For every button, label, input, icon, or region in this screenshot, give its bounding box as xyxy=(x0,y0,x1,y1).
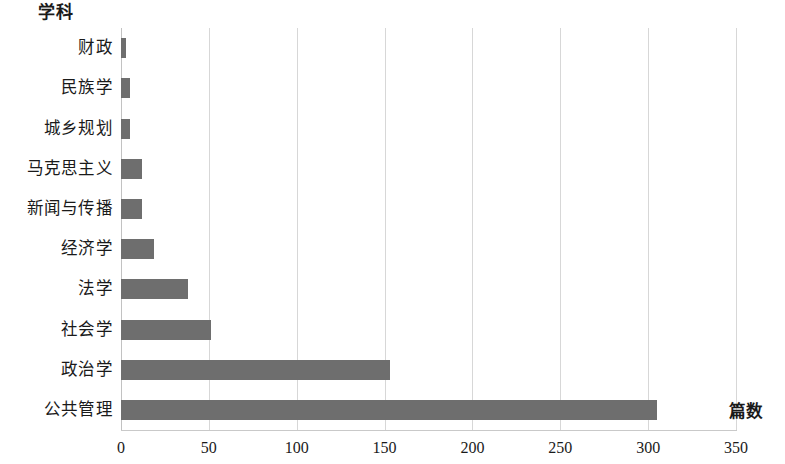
chart-title: 学科 xyxy=(38,4,73,21)
x-axis-baseline xyxy=(121,430,737,431)
bar-row xyxy=(121,392,736,428)
x-axis-tick-label: 0 xyxy=(117,436,125,460)
y-axis-label: 民族学 xyxy=(61,70,113,106)
bars-layer xyxy=(121,28,736,430)
y-axis-label: 社会学 xyxy=(61,312,113,348)
bar-row xyxy=(121,312,736,348)
y-axis-label: 马克思主义 xyxy=(27,151,114,187)
bar-row xyxy=(121,111,736,147)
x-axis-tick-label: 100 xyxy=(285,436,309,460)
y-axis-label: 财政 xyxy=(78,30,113,66)
bar xyxy=(121,279,188,299)
bar-row xyxy=(121,30,736,66)
x-axis-tick-label: 150 xyxy=(373,436,397,460)
bar xyxy=(121,78,130,98)
y-axis-label: 公共管理 xyxy=(44,392,113,428)
x-axis-tick-labels: 050100150200250300350 xyxy=(0,436,785,462)
bar xyxy=(121,159,142,179)
bar-row xyxy=(121,191,736,227)
y-axis-label: 经济学 xyxy=(61,231,113,267)
bar-row xyxy=(121,271,736,307)
x-axis-unit-label: 篇数 xyxy=(729,398,764,422)
bar xyxy=(121,400,657,420)
gridline xyxy=(736,28,737,430)
bar xyxy=(121,119,130,139)
bar-chart: 学科 财政民族学城乡规划马克思主义新闻与传播经济学法学社会学政治学公共管理 05… xyxy=(0,0,785,464)
bar-row xyxy=(121,151,736,187)
bar xyxy=(121,360,390,380)
y-axis-label: 法学 xyxy=(78,271,113,307)
y-axis-label: 城乡规划 xyxy=(44,111,113,147)
y-axis-label: 新闻与传播 xyxy=(27,191,114,227)
x-axis-tick-label: 50 xyxy=(201,436,217,460)
y-axis-label: 政治学 xyxy=(61,352,113,388)
plot-area xyxy=(121,28,736,430)
bar xyxy=(121,320,211,340)
bar-row xyxy=(121,70,736,106)
x-axis-tick-label: 250 xyxy=(548,436,572,460)
bar xyxy=(121,239,154,259)
y-axis-category-labels: 财政民族学城乡规划马克思主义新闻与传播经济学法学社会学政治学公共管理 xyxy=(0,28,113,430)
bar-row xyxy=(121,352,736,388)
bar xyxy=(121,38,126,58)
x-axis-tick-label: 300 xyxy=(636,436,660,460)
x-axis-tick-label: 200 xyxy=(460,436,484,460)
x-axis-tick-label: 350 xyxy=(724,436,748,460)
bar xyxy=(121,199,142,219)
bar-row xyxy=(121,231,736,267)
